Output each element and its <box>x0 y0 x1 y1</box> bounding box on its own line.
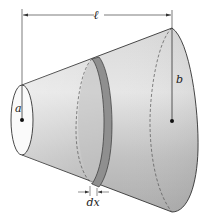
slice-thickness-label: dx <box>86 196 100 209</box>
large-radius-label: b <box>176 73 183 86</box>
dx-arrow-left-icon <box>85 191 89 194</box>
length-arrow-right-icon <box>166 14 171 17</box>
frustum-svg: ℓ a b dx <box>0 0 206 223</box>
frustum-diagram: ℓ a b dx <box>0 0 206 223</box>
dx-arrow-right-icon <box>98 191 102 194</box>
length-label: ℓ <box>94 8 99 22</box>
small-center-dot <box>20 118 24 122</box>
large-center-dot <box>170 119 174 123</box>
length-arrow-left-icon <box>23 14 28 17</box>
small-radius-label: a <box>15 102 22 115</box>
